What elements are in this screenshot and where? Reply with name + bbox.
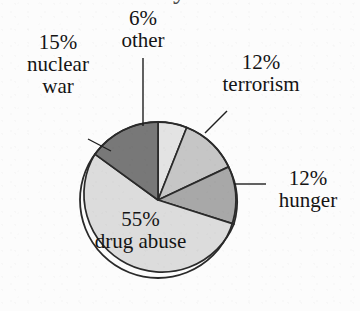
pie-label-drug-abuse: 55% drug abuse — [73, 208, 208, 253]
pie-label-nuclear-war-name-line2: war — [4, 76, 112, 98]
pie-label-nuclear-war-percent: 15% — [4, 32, 112, 54]
pie-label-hunger-name: hunger — [258, 190, 358, 212]
pie-label-other-percent: 6% — [101, 8, 185, 30]
pie-label-other: 6% other — [101, 8, 185, 52]
pie-label-terrorism-percent: 12% — [196, 52, 326, 74]
pie-label-terrorism-name: terrorism — [196, 74, 326, 96]
pie-label-nuclear-war-name-line1: nuclear — [4, 54, 112, 76]
pie-label-hunger: 12% hunger — [258, 168, 358, 212]
pie-chart-figure: y 15% nuclear war 6% other 12% terrorism… — [0, 0, 360, 311]
leader-line-terrorism — [205, 111, 227, 133]
pie-label-terrorism: 12% terrorism — [196, 52, 326, 96]
pie-label-drug-abuse-name: drug abuse — [73, 230, 208, 252]
pie-label-drug-abuse-percent: 55% — [73, 208, 208, 230]
pie-label-hunger-percent: 12% — [258, 168, 358, 190]
pie-label-nuclear-war: 15% nuclear war — [4, 32, 112, 97]
pie-label-other-name: other — [101, 30, 185, 52]
